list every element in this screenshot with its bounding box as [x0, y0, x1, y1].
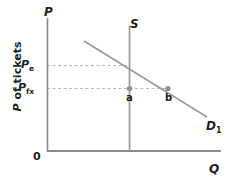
y-axis-description-variable: P: [11, 103, 24, 111]
equilibrium-price-subscript: e: [29, 64, 34, 73]
y-axis-variable-label: P: [44, 6, 53, 18]
point-a-label: a: [126, 93, 133, 103]
demand-curve-label-base: D: [206, 119, 216, 133]
x-axis-variable-label: Q: [209, 163, 219, 175]
equilibrium-price-base: P: [21, 58, 29, 71]
point-a-marker: [127, 86, 132, 91]
demand-curve-label: D1: [206, 120, 222, 135]
y-axis-description: P of tickets: [11, 32, 24, 122]
fixed-price-subscript: fx: [26, 87, 34, 96]
fixed-price-tick-label: Pfx: [18, 82, 34, 96]
point-b-marker: [165, 86, 170, 91]
fixed-price-base: P: [18, 81, 26, 94]
supply-curve-label: S: [130, 18, 139, 30]
supply-demand-figure: P of tickets P Q 0 Pe Pfx S D1 a b: [0, 0, 229, 181]
point-b-label: b: [165, 93, 172, 103]
demand-curve-label-subscript: 1: [216, 126, 222, 135]
equilibrium-price-tick-label: Pe: [21, 59, 34, 73]
origin-label: 0: [33, 151, 41, 162]
demand-curve: [84, 41, 207, 117]
